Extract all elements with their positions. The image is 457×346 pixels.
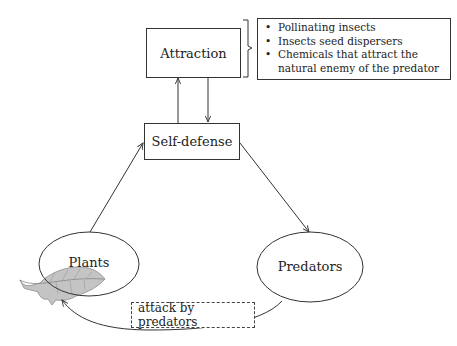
bracket [243,20,252,77]
attraction-details-list: Pollinating insects Insects seed dispers… [264,21,446,75]
plants-label: Plants [64,255,114,270]
arrow-self-defense-to-predators [240,143,309,232]
list-item: Chemicals that attract the natural enemy… [278,48,446,75]
attack-label-text: attack by predators [138,301,254,329]
attraction-details-box: Pollinating insects Insects seed dispers… [257,18,451,80]
leaf-icon [20,267,105,305]
predators-label: Predators [272,259,348,274]
attack-by-predators-label: attack by predators [131,302,255,328]
list-item: Insects seed dispersers [278,35,446,49]
list-item: Pollinating insects [278,21,446,35]
self-defense-label: Self-defense [152,134,233,149]
attraction-label: Attraction [160,46,226,61]
attraction-box: Attraction [146,28,241,78]
self-defense-box: Self-defense [144,123,240,160]
arrow-plants-to-self-defense [90,143,143,232]
